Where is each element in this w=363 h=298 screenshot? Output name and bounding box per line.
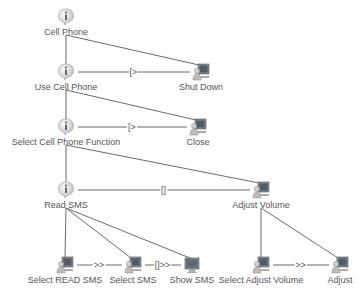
- temporal-operator-label: []>>: [154, 260, 172, 270]
- task-label: Adjust: [260, 275, 363, 285]
- temporal-operator-label: []: [160, 185, 167, 195]
- hierarchy-edge: [66, 90, 196, 120]
- hierarchy-edge: [66, 208, 190, 258]
- task-label: Adjust Volume: [181, 200, 341, 210]
- user-computer-icon[interactable]: [192, 63, 210, 81]
- task-label: Cell Phone: [0, 27, 146, 37]
- user-computer-icon[interactable]: [124, 256, 142, 274]
- diagram-edges: [0, 0, 363, 298]
- task-label: Shut Down: [121, 82, 281, 92]
- temporal-operator-label: >>: [93, 260, 106, 270]
- temporal-operator-label: [>: [127, 122, 137, 132]
- info-bubble-icon[interactable]: [57, 8, 75, 26]
- hierarchy-edge: [261, 208, 338, 258]
- task-label: Read SMS: [0, 200, 146, 210]
- info-bubble-icon[interactable]: [57, 118, 75, 136]
- hierarchy-edge: [65, 208, 66, 257]
- user-computer-icon[interactable]: [252, 181, 270, 199]
- task-label: Close: [118, 137, 278, 147]
- hierarchy-edge: [66, 35, 199, 65]
- user-computer-icon[interactable]: [252, 256, 270, 274]
- hierarchy-edge: [66, 208, 131, 258]
- hierarchy-edge: [66, 145, 259, 183]
- temporal-operator-label: [>: [129, 67, 139, 77]
- computer-icon[interactable]: [183, 256, 201, 274]
- info-bubble-icon[interactable]: [57, 63, 75, 81]
- temporal-operator-label: >>: [294, 260, 307, 270]
- user-computer-icon[interactable]: [331, 256, 349, 274]
- user-computer-icon[interactable]: [56, 256, 74, 274]
- user-computer-icon[interactable]: [189, 118, 207, 136]
- info-bubble-icon[interactable]: [57, 181, 75, 199]
